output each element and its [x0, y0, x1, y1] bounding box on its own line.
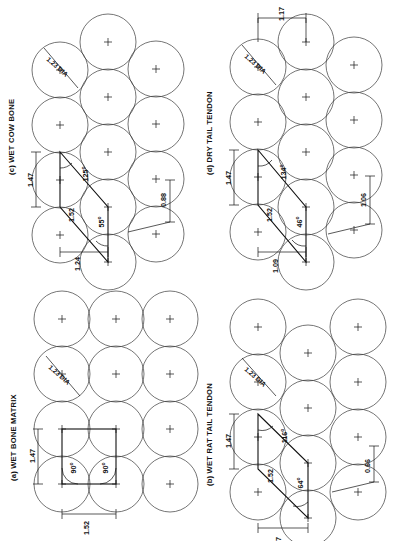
panel-c-dia-label: 1.23 DIA [45, 55, 69, 78]
panel-d-dim-1-47-label: 1.47 [224, 171, 233, 185]
panel-c-angle-2: 55o [96, 216, 106, 227]
panel-d-angle-1: 134o [278, 164, 288, 179]
panel-b-dim-1-52-label: 1.52 [266, 469, 275, 483]
panel-c-dim-1-47-label: 1.47 [26, 173, 35, 187]
panel-a-dim-1-47-label: 1.47 [28, 449, 37, 463]
panel-b-dim-0-66-label: 0.66 [363, 459, 372, 473]
panel-b-dia-label: 1.23 DIA [243, 365, 267, 388]
svg-text:116o: 116o [279, 429, 289, 444]
panel-c-angle-1: 125o [80, 166, 90, 181]
svg-text:55o: 55o [96, 216, 106, 227]
panel-c-dim-1-24 [60, 247, 108, 257]
panel-d-dim-1-06-label: 1.06 [359, 193, 368, 207]
panel-c-wet-cow-bone: (c) WET COW BONE 1.47 1.52 1.24 0.88 125… [0, 0, 200, 300]
figure-canvas: (c) WET COW BONE 1.47 1.52 1.24 0.88 125… [0, 0, 402, 541]
panel-d-dim-1-09 [258, 247, 306, 257]
panel-d-dia-label: 1.23 DIA [243, 52, 267, 75]
panel-b-angle-1: 116o [279, 429, 289, 444]
panel-a-dim-1-52-label: 1.52 [82, 521, 91, 535]
panel-b-dim-1-47-label: 1.47 [224, 434, 233, 448]
panel-d-title: (d) DRY TAIL TENDON [205, 91, 214, 175]
panel-d-dim-1-09-label: 1.09 [271, 259, 280, 273]
svg-text:90o: 90o [100, 462, 110, 473]
panel-a-angle-2: 90o [100, 462, 110, 473]
panel-a-dia-label: 1.23 DIA [47, 363, 71, 386]
svg-text:90o: 90o [68, 462, 78, 473]
panel-c-dim-0-88-label: 0.88 [159, 193, 168, 207]
svg-text:125o: 125o [80, 166, 90, 181]
svg-text:46o: 46o [294, 216, 304, 227]
panel-d-dim-1-17-label: 1.17 [277, 7, 286, 21]
panel-c-dim-1-24-label: 1.24 [73, 257, 82, 271]
panel-d-angle-2: 46o [294, 216, 304, 227]
panel-b-dim-37-label: 37 [274, 537, 283, 541]
panel-a-title: (a) WET BONE MATRIX [9, 394, 18, 481]
svg-text:64o: 64o [295, 477, 305, 488]
panel-d-dim-1-52-label: 1.52 [265, 208, 274, 222]
panel-b-dim-37 [258, 523, 308, 533]
svg-text:134o: 134o [278, 164, 288, 179]
panel-d-dry-tail-tendon: (d) DRY TAIL TENDON 1.47 1.52 1.09 1.06 … [196, 0, 402, 300]
panel-a-angle-1: 90o [68, 462, 78, 473]
panel-c-dim-1-52-label: 1.52 [67, 208, 76, 222]
panel-b-angle-2: 64o [295, 477, 305, 488]
panel-c-title: (c) WET COW BONE [7, 99, 16, 175]
panel-b-title: (b) WET RAT TAIL TENDON [205, 383, 214, 486]
panel-a-wet-bone-matrix: (a) WET BONE MATRIX 1.47 1.52 90o 90o 1.… [0, 296, 200, 541]
panel-b-wet-rat-tail-tendon: (b) WET RAT TAIL TENDON 1.47 1.52 37 0.6… [196, 296, 402, 541]
